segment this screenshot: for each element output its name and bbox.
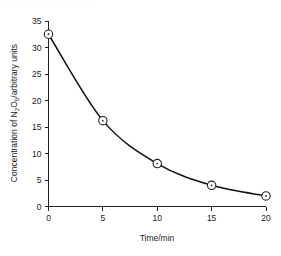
y-axis-ticks: 05101520253035 bbox=[32, 16, 48, 212]
data-point-center-dot bbox=[102, 120, 104, 122]
y-axis-title: Concentration of N2O5/arbitrary units bbox=[9, 44, 20, 182]
x-tick-label: 10 bbox=[153, 213, 163, 223]
y-tick-label: 30 bbox=[32, 43, 42, 53]
data-series-curve bbox=[49, 34, 267, 196]
data-point-center-dot bbox=[156, 163, 158, 165]
data-point-center-dot bbox=[265, 195, 267, 197]
data-point-markers bbox=[44, 30, 270, 200]
data-point-center-dot bbox=[211, 184, 213, 186]
y-tick-label: 25 bbox=[32, 69, 42, 79]
x-tick-label: 0 bbox=[46, 213, 51, 223]
y-tick-label: 35 bbox=[32, 16, 42, 26]
x-axis-title: Time/min bbox=[140, 233, 175, 243]
chart-canvas: 05101520253035 05101520 Time/min Concent… bbox=[0, 0, 281, 256]
y-axis-title-prefix: Concentration of N bbox=[9, 111, 19, 182]
x-tick-label: 15 bbox=[207, 213, 217, 223]
y-tick-label: 0 bbox=[37, 202, 42, 212]
y-axis-title-suffix: /arbitrary units bbox=[9, 44, 19, 98]
y-tick-label: 20 bbox=[32, 96, 42, 106]
y-tick-label: 15 bbox=[32, 122, 42, 132]
x-tick-label: 5 bbox=[101, 213, 106, 223]
y-tick-label: 5 bbox=[37, 175, 42, 185]
chart-figure: — —— — ——— — — —— — 05101520253035 05101… bbox=[0, 0, 281, 256]
data-point-center-dot bbox=[48, 33, 50, 35]
axes-group bbox=[49, 21, 267, 207]
x-tick-label: 20 bbox=[261, 213, 271, 223]
y-tick-label: 10 bbox=[32, 149, 42, 159]
x-axis-ticks: 05101520 bbox=[46, 207, 271, 223]
